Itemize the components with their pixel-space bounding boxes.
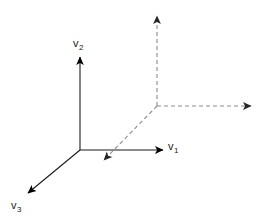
vector-diagram-figure: v1 v2 v3 [0, 0, 263, 223]
v3-axis-label: v3 [11, 200, 21, 211]
v2-label-base: v [73, 37, 79, 49]
axes-canvas [0, 0, 263, 223]
v3-label-base: v [11, 199, 17, 211]
dashed-diagonal-axis-line [104, 106, 157, 160]
v1-label-sub: 1 [174, 146, 178, 155]
v3-label-sub: 3 [17, 205, 21, 214]
v1-axis-label: v1 [168, 141, 178, 152]
v2-axis-label: v2 [73, 38, 83, 49]
v3-axis-line [28, 150, 80, 193]
v1-label-base: v [168, 140, 174, 152]
v2-label-sub: 2 [79, 43, 83, 52]
